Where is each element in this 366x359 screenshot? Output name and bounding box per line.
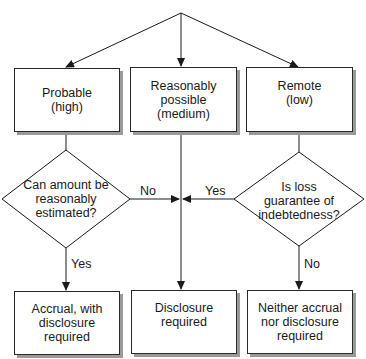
decision-guarantee-label: Is loss guarantee of indebtedness? — [249, 180, 349, 222]
edge-label-estimable-no: No — [140, 184, 156, 198]
arrow-to-probable — [66, 13, 181, 67]
box-disclosure: Disclosure required — [131, 290, 237, 354]
box-neither: Neither accrual nor disclosure required — [247, 290, 353, 354]
box-neither-label: Neither accrual nor disclosure required — [258, 301, 342, 343]
box-accrual-label: Accrual, with disclosure required — [32, 302, 103, 344]
decision-estimable-label: Can amount be reasonably estimated? — [16, 178, 116, 220]
box-probable-label: Probable (high) — [42, 86, 92, 114]
arrow-to-remote — [181, 13, 298, 67]
box-accrual: Accrual, with disclosure required — [14, 291, 120, 355]
box-remote: Remote (low) — [246, 67, 353, 132]
box-reasonably-possible: Reasonably possible (medium) — [130, 67, 237, 132]
box-reasonably-possible-label: Reasonably possible (medium) — [150, 79, 216, 121]
edge-label-guarantee-yes: Yes — [205, 184, 225, 198]
box-disclosure-label: Disclosure required — [155, 301, 213, 329]
box-probable: Probable (high) — [14, 68, 120, 132]
box-remote-label: Remote (low) — [278, 79, 322, 107]
edge-label-guarantee-no: No — [304, 257, 320, 271]
edge-label-estimable-yes: Yes — [71, 257, 91, 271]
